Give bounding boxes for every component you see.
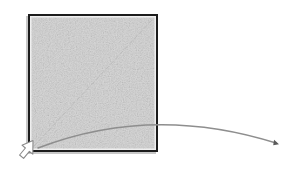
illustration-canvas: Drag gesture illustration: a textured gr…	[0, 0, 302, 174]
drag-gesture-illustration	[0, 0, 302, 174]
